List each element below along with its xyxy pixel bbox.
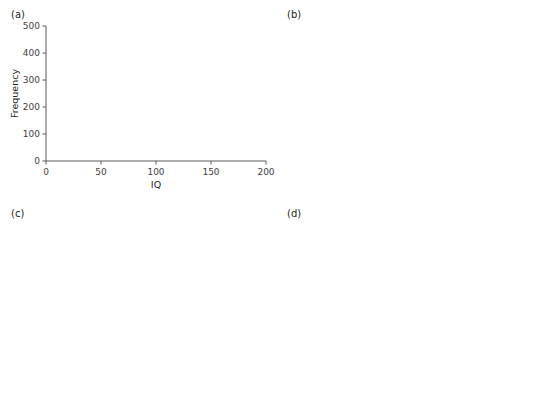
panel-b-label: (b) [287, 9, 301, 20]
x-axis-tick-label: 50 [95, 167, 107, 177]
y-axis-tick-label: 300 [23, 75, 40, 85]
panel-d-label: (d) [287, 208, 301, 219]
panel-c: (c) [0, 199, 275, 398]
panel-b: (b) [276, 0, 551, 199]
x-axis-tick-label: 200 [257, 167, 274, 177]
y-axis-tick-label: 100 [23, 129, 40, 139]
x-axis-tick-label: 0 [43, 167, 49, 177]
panel-d-plot: (d) [276, 199, 551, 398]
x-axis-tick-label: 150 [202, 167, 219, 177]
x-axis-title: IQ [151, 179, 161, 190]
y-axis-tick-label: 200 [23, 102, 40, 112]
panel-c-label: (c) [11, 208, 24, 219]
panel-a-plot: (a) 0501001502000100200300400500IQFreque… [0, 0, 275, 199]
figure-root: (a) 0501001502000100200300400500IQFreque… [0, 0, 551, 398]
y-axis-title: Frequency [9, 69, 20, 118]
panel-a: (a) 0501001502000100200300400500IQFreque… [0, 0, 275, 199]
panel-d: (d) [276, 199, 551, 398]
y-axis-tick-label: 400 [23, 48, 40, 58]
panel-b-plot: (b) [276, 0, 551, 199]
y-axis-tick-label: 500 [23, 21, 40, 31]
x-axis-tick-label: 100 [147, 167, 164, 177]
panel-c-plot: (c) [0, 199, 275, 398]
panel-a-label: (a) [11, 9, 25, 20]
y-axis-tick-label: 0 [34, 156, 40, 166]
panel-a-axes: 0501001502000100200300400500IQFrequency [9, 21, 275, 190]
